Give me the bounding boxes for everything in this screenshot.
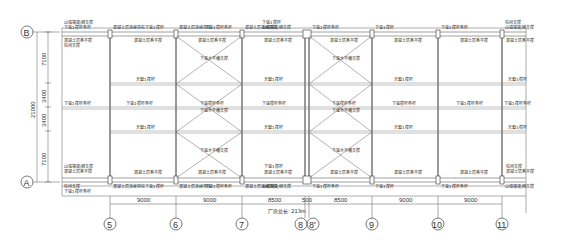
label-roof-brace-7: 混凝土层系平撑 <box>506 37 534 43</box>
label-roof-brace-1: 混凝土层系平撑 <box>134 37 162 43</box>
label-tie-l3: 下弦1撑杆 <box>264 163 283 169</box>
label-mid-tie-4: 下弦撑杆条杆 <box>332 100 356 106</box>
label-col-purlin-1: 混凝土层连续带柱 <box>113 24 145 30</box>
dim-upper: 7100 <box>41 52 47 66</box>
label-tie-bar-2: 下弦1撑杆条杆 <box>205 24 232 30</box>
label-horiz-brace-1: 下弦水平横支撑 <box>200 55 228 61</box>
label-horiz-brace-3: 下弦水平横支撑 <box>200 107 228 113</box>
structural-bracing-plan: B A 21000 7100 3400 3400 7100 <box>0 0 566 242</box>
label-mid-tie-left: 下弦1撑杆条杆 <box>64 100 91 106</box>
label-mid-tie-5: 下弦撑杆条杆 <box>392 100 416 106</box>
dim-span-4: 500 <box>302 197 313 203</box>
horizontal-ties <box>62 83 526 133</box>
total-length-note: 厂房总长: 213m <box>268 208 306 215</box>
column-bubbles <box>104 218 508 230</box>
col-label-7: 7 <box>239 220 244 230</box>
label-tie-bar-4: 下弦1撑杆条杆 <box>312 24 339 30</box>
label-horiz-brace-6: 下弦水平横支撑 <box>332 147 360 153</box>
dim-span-3: 8500 <box>268 197 282 203</box>
col-label-11: 11 <box>497 220 506 230</box>
label-ridge-tie-7: 天窗1撑杆 <box>394 124 413 130</box>
label-roof-brace-l7: 混凝土层系平撑 <box>506 168 534 174</box>
dim-span-7: 9000 <box>464 197 478 203</box>
col-label-6: 6 <box>173 220 178 230</box>
col-label-10: 10 <box>432 220 442 230</box>
label-roof-brace-l5: 混凝土层系平撑 <box>394 169 422 175</box>
label-roof-brace-l2: 混凝土层系平撑 <box>198 169 226 175</box>
grid-bubble-B: B <box>21 26 33 38</box>
label-roof-brace-6: 混凝土层系平撑 <box>460 37 488 43</box>
label-side-tie-left: 柱间支撑 <box>64 42 80 48</box>
dim-lower: 7100 <box>41 152 47 166</box>
label-tie-bar-b4: 下弦1撑杆条杆 <box>312 183 339 189</box>
label-gable-brace-b7: 山墙端梁/钢支撑 <box>505 183 534 189</box>
label-horiz-brace-2: 下弦水平横支撑 <box>332 55 360 61</box>
label-roof-brace-lower-left: 混凝土层系平撑 <box>64 168 92 174</box>
dim-mid-lower: 3400 <box>41 113 47 127</box>
label-gable-brace-3: 山墙端梁/钢支撑 <box>262 24 291 30</box>
label-mid-tie-3: 下弦撑杆条杆 <box>262 100 286 106</box>
dim-span-6: 9000 <box>399 197 413 203</box>
label-ridge-tie-6: 天窗1撑杆 <box>264 124 283 130</box>
label-tie-bar-b6: 下弦1撑杆条杆 <box>441 183 468 189</box>
col-label-9: 9 <box>369 220 374 230</box>
label-roof-brace-5: 混凝土层系平撑 <box>394 37 422 43</box>
label-roof-brace-l3: 混凝土层系平撑 <box>264 169 292 175</box>
col-label-8: 8 <box>298 220 303 230</box>
label-ridge-tie-1: 天窗1撑杆 <box>136 76 155 82</box>
plan-drawing: B A 21000 7100 3400 3400 7100 <box>0 0 566 242</box>
dim-mid-upper: 3400 <box>41 89 47 103</box>
label-tie-bar-b2: 下弦1撑杆条杆 <box>205 183 232 189</box>
label-roof-brace-2: 混凝土层系平撑 <box>198 37 226 43</box>
grid-bubble-A: A <box>21 176 33 188</box>
label-mid-tie-2: 下弦撑杆条杆 <box>200 100 224 106</box>
label-tie-1: 下弦1撑杆 <box>145 24 164 30</box>
label-gable-brace-right: 山墙端梁/钢支撑 <box>505 24 534 30</box>
label-ridge-tie-5: 天窗1撑杆 <box>136 124 155 130</box>
label-ridge-tie-8: 天窗1撑杆 <box>508 124 527 130</box>
dim-span-1: 9000 <box>137 197 151 203</box>
label-tie-b5: 下弦1撑杆 <box>375 183 394 189</box>
col-label-5: 5 <box>107 220 112 230</box>
label-roof-brace-3: 混凝土层系平撑 <box>264 37 292 43</box>
grid-label-A: A <box>24 178 30 188</box>
label-tie-b1: 下弦1撑杆 <box>145 183 164 189</box>
label-roof-brace-l4: 混凝土层系平撑 <box>330 169 358 175</box>
label-tie-5: 下弦1撑杆 <box>375 24 394 30</box>
label-ridge-tie-2: 天窗1撑杆 <box>264 76 283 82</box>
label-tie-bar-top: 下弦1撑杆条杆 <box>64 24 91 30</box>
label-mid-tie-1: 下弦1撑杆条杆 <box>126 100 153 106</box>
label-roof-brace-l6: 混凝土层系平撑 <box>460 169 488 175</box>
label-tie-bar-bottom: 下弦1撑杆条杆 <box>64 188 91 194</box>
dim-span-2: 9000 <box>203 197 217 203</box>
label-ridge-tie-3: 天窗1撑杆 <box>394 76 413 82</box>
label-mid-tie-6: 下弦1撑杆条杆 <box>456 100 483 106</box>
label-horiz-brace-4: 下弦水平横支撑 <box>332 107 360 113</box>
label-col-purlin-b1: 混凝土层连续带柱 <box>113 183 145 189</box>
label-ridge-tie-4: 天窗1撑杆 <box>508 76 527 82</box>
label-roof-brace-l1: 混凝土层系平撑 <box>134 169 162 175</box>
label-mid-tie-7: 下弦1撑杆条杆 <box>504 100 531 106</box>
label-horiz-brace-5: 下弦水平横支撑 <box>200 147 228 153</box>
grid-label-B: B <box>24 28 30 38</box>
col-label-8p: 8' <box>309 220 316 230</box>
dim-total: 21000 <box>30 101 36 118</box>
label-roof-brace-4: 混凝土层系平撑 <box>330 37 358 43</box>
label-tie-bar-6: 下弦1撑杆条杆 <box>441 24 468 30</box>
label-gable-brace-b3: 山墙端梁/钢支撑 <box>262 183 291 189</box>
dim-span-5: 8500 <box>334 197 348 203</box>
